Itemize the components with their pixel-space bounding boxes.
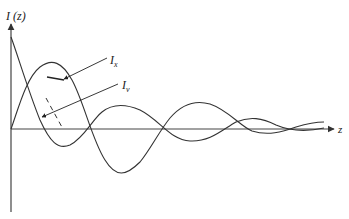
iv-leader <box>42 84 118 117</box>
current-distribution-diagram: I (z) z Ix Iv <box>0 0 349 219</box>
iv-label: Iv <box>121 78 130 94</box>
ix-leader <box>64 58 107 79</box>
x-axis-label: z <box>337 123 343 135</box>
dashed-guide <box>46 98 63 129</box>
curve-iv <box>11 37 324 146</box>
y-axis-label: I (z) <box>5 9 26 23</box>
ix-label: Ix <box>109 53 118 69</box>
ix-tick <box>47 77 64 80</box>
